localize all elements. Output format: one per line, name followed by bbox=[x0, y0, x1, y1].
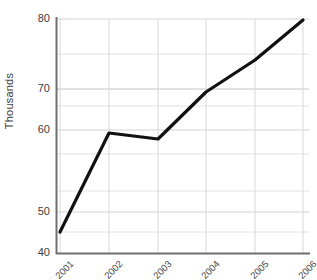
x-tick-label-2001: 2001 bbox=[34, 258, 76, 280]
x-axis-tick-labels: 2001 2002 2003 2004 2005 2006 bbox=[0, 0, 317, 280]
x-tick-label-2006: 2006 bbox=[277, 258, 317, 280]
line-chart: Thousands 80 70 60 50 40 bbox=[0, 0, 317, 280]
x-tick-label-2002: 2002 bbox=[83, 258, 125, 280]
x-tick-label-2005: 2005 bbox=[229, 258, 271, 280]
x-tick-label-2004: 2004 bbox=[180, 258, 222, 280]
x-tick-label-2003: 2003 bbox=[132, 258, 174, 280]
